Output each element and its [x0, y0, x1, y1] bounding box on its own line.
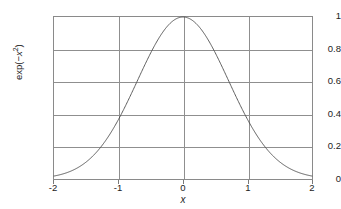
y-axis-title: exp(−x2)	[12, 55, 24, 69]
ytick-label-0.6: 0.6	[295, 76, 341, 86]
y-axis-title-base: x	[13, 51, 24, 56]
xtick-label--1: -1	[103, 183, 133, 193]
gaussian-plot-figure: 1 0.8 0.6 0.4 0.2 0 -2 -1 0 1 2 exp(−x2)…	[0, 0, 341, 209]
plot-area	[53, 16, 313, 180]
y-axis-title-suffix: )	[13, 44, 24, 47]
curve-gaussian	[54, 17, 312, 179]
y-axis-title-prefix: exp(−	[13, 56, 24, 80]
xtick-label--2: -2	[38, 183, 68, 193]
ytick-label-0.4: 0.4	[295, 109, 341, 119]
xtick-label-0: 0	[168, 183, 198, 193]
ytick-label-0.2: 0.2	[295, 141, 341, 151]
xtick-label-1: 1	[233, 183, 263, 193]
ytick-label-0.8: 0.8	[295, 44, 341, 54]
ytick-label-1: 1	[295, 11, 341, 21]
y-axis-title-exponent: 2	[12, 47, 19, 51]
x-axis-title: x	[53, 194, 313, 205]
xtick-label-2: 2	[297, 183, 327, 193]
